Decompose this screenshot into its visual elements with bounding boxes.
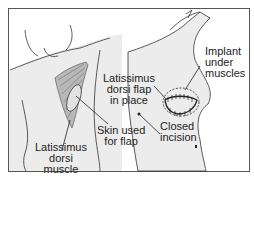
label-line: incision bbox=[160, 132, 197, 143]
incision-end-mark bbox=[138, 113, 141, 116]
label-line: muscles bbox=[205, 68, 245, 79]
label-closed-incision: Closed incision bbox=[160, 121, 197, 143]
label-line: for flap bbox=[97, 136, 145, 147]
label-implant: Implant under muscles bbox=[205, 46, 245, 79]
label-line: muscle bbox=[35, 164, 87, 175]
navel-mark bbox=[195, 145, 197, 148]
label-skin-used: Skin used for flap bbox=[97, 125, 145, 147]
label-latissimus-muscle: Latissimus dorsi muscle bbox=[35, 142, 87, 175]
label-line: in place bbox=[103, 95, 155, 106]
label-flap-in-place: Latissimus dorsi flap in place bbox=[103, 73, 155, 106]
